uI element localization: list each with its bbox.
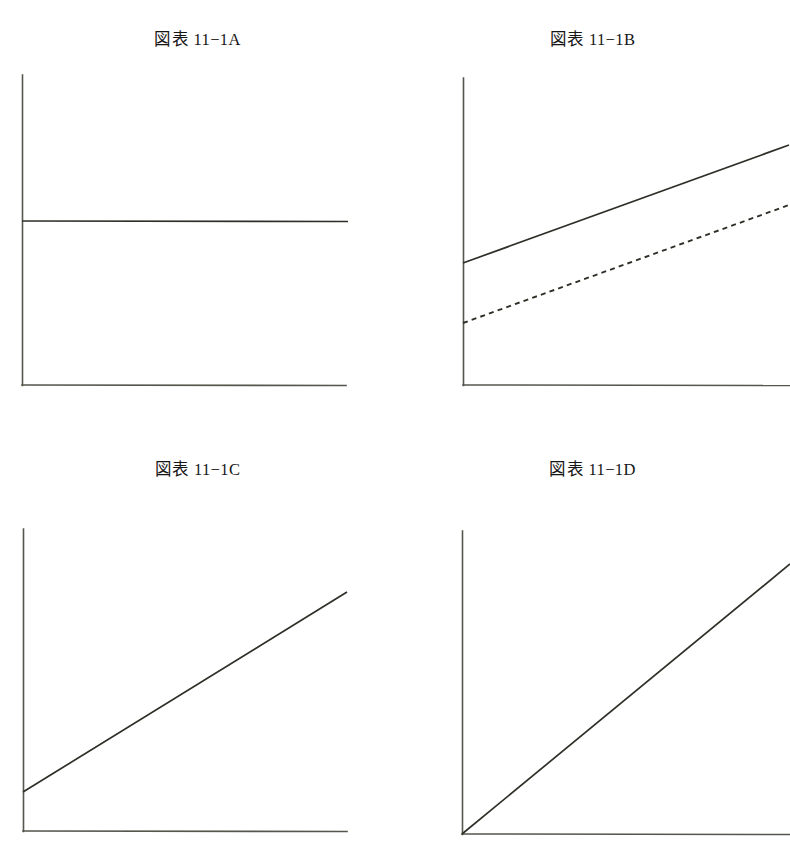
panel-d-series-through-origin xyxy=(462,564,790,834)
panel-c-series-positive-intercept xyxy=(23,592,347,792)
panel-b-x-axis xyxy=(463,385,790,386)
panel-b-plot xyxy=(395,0,790,430)
chart-panel-d: 図表 11−1D xyxy=(395,430,790,858)
panel-c-plot xyxy=(0,430,395,858)
panel-b-series-lower xyxy=(463,205,789,323)
chart-panel-c: 図表 11−1C xyxy=(0,430,395,858)
panel-a-x-axis xyxy=(22,385,346,386)
panel-d-x-axis xyxy=(462,834,790,835)
panel-a-series-flat xyxy=(22,221,348,222)
chart-panel-b: 図表 11−1B xyxy=(395,0,790,430)
chart-panel-a: 図表 11−1A xyxy=(0,0,395,430)
panel-a-plot xyxy=(0,0,395,430)
figure-grid: 図表 11−1A 図表 11−1B 図表 11−1C xyxy=(0,0,790,858)
panel-b-series-upper xyxy=(463,145,789,263)
panel-d-plot xyxy=(395,430,790,858)
panel-c-x-axis xyxy=(23,831,347,832)
